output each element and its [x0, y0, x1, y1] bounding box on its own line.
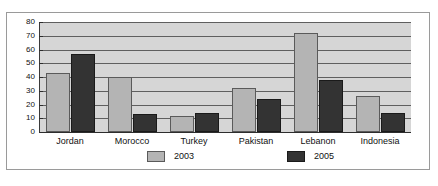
x-axis-tick-label-morocco: Morocco	[101, 135, 163, 147]
y-axis-tick-label: 70	[11, 32, 35, 40]
bars-layer	[39, 22, 411, 132]
bar-jordan-2005[interactable]	[71, 54, 95, 132]
y-axis-tick-label: 0	[11, 128, 35, 136]
x-axis-tick-label-indonesia: Indonesia	[349, 135, 411, 147]
y-axis-tick-label: 60	[11, 46, 35, 54]
x-axis: JordanMoroccoTurkeyPakistanLebanonIndone…	[39, 135, 411, 149]
legend-item-2005[interactable]: 2005	[287, 151, 334, 162]
bar-morocco-2005[interactable]	[133, 114, 157, 132]
y-axis-tick-label: 80	[11, 18, 35, 26]
y-axis: 01020304050607080	[7, 22, 35, 132]
y-axis-tick-label: 30	[11, 87, 35, 95]
y-axis-tick-label: 40	[11, 73, 35, 81]
legend-swatch-2005	[287, 151, 305, 162]
bar-indonesia-2003[interactable]	[356, 96, 380, 132]
x-axis-tick-label-jordan: Jordan	[39, 135, 101, 147]
x-axis-tick-label-lebanon: Lebanon	[287, 135, 349, 147]
y-axis-tick-mark	[39, 22, 43, 23]
bar-group	[294, 22, 343, 132]
y-axis-tick-label: 50	[11, 59, 35, 67]
x-axis-tick-label-turkey: Turkey	[163, 135, 225, 147]
bar-group	[232, 22, 281, 132]
y-axis-tick-mark	[39, 36, 43, 37]
bar-turkey-2003[interactable]	[170, 116, 194, 133]
y-axis-tick-mark	[39, 105, 43, 106]
bar-turkey-2005[interactable]	[195, 113, 219, 132]
y-axis-tick-label: 10	[11, 114, 35, 122]
legend-label-2005: 2005	[314, 151, 334, 162]
chart-legend: 20032005	[39, 151, 411, 167]
legend-swatch-2003	[147, 151, 165, 162]
bar-indonesia-2005[interactable]	[381, 113, 405, 132]
x-axis-tick-label-pakistan: Pakistan	[225, 135, 287, 147]
y-axis-tick-label: 20	[11, 101, 35, 109]
chart-plot-wrapper: 01020304050607080 JordanMoroccoTurkeyPak…	[7, 13, 431, 171]
bar-lebanon-2003[interactable]	[294, 33, 318, 132]
bar-group	[108, 22, 157, 132]
bar-group	[46, 22, 95, 132]
bar-group	[356, 22, 405, 132]
y-axis-tick-mark	[39, 118, 43, 119]
y-axis-tick-mark	[39, 77, 43, 78]
legend-label-2003: 2003	[174, 151, 194, 162]
bar-jordan-2003[interactable]	[46, 73, 70, 132]
bar-pakistan-2003[interactable]	[232, 88, 256, 132]
bar-group	[170, 22, 219, 132]
y-axis-tick-mark	[39, 91, 43, 92]
y-axis-tick-mark	[39, 63, 43, 64]
y-axis-tick-mark	[39, 50, 43, 51]
bar-pakistan-2005[interactable]	[257, 99, 281, 132]
chart-frame: 01020304050607080 JordanMoroccoTurkeyPak…	[6, 12, 430, 170]
x-axis-baseline	[39, 132, 411, 133]
legend-item-2003[interactable]: 2003	[147, 151, 194, 162]
bar-morocco-2003[interactable]	[108, 77, 132, 132]
y-axis-tick-mark	[39, 132, 43, 133]
bar-lebanon-2005[interactable]	[319, 80, 343, 132]
